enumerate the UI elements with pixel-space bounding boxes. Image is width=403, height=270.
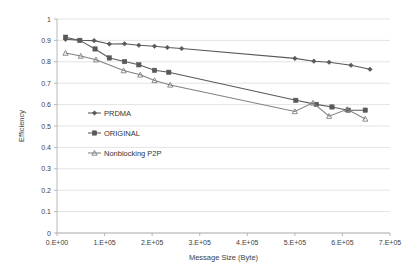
x-tick-label: 7.E+05	[379, 239, 401, 246]
y-tick-label: 0	[47, 230, 51, 237]
y-tick-label: 1	[47, 16, 51, 23]
y-tick-label: 0.9	[41, 37, 51, 44]
x-tick-label: 3.E+05	[189, 239, 211, 246]
data-point-marker	[93, 47, 97, 51]
data-point-marker	[107, 56, 111, 60]
x-tick-label: 1.E+05	[93, 239, 115, 246]
data-point-marker	[363, 108, 367, 112]
chart-container: 00.10.20.30.40.50.60.70.80.91 0.E+001.E+…	[0, 0, 403, 270]
data-point-marker	[167, 70, 171, 74]
y-tick-label: 0.3	[41, 165, 51, 172]
y-tick-label: 0.2	[41, 187, 51, 194]
y-tick-label: 0.1	[41, 208, 51, 215]
data-point-marker	[330, 105, 334, 109]
y-tick-label: 0.8	[41, 58, 51, 65]
y-axis-title: Efficiency	[17, 110, 26, 142]
legend-label: ORIGINAL	[104, 129, 140, 138]
y-tick-label: 0.4	[41, 144, 51, 151]
data-point-marker	[122, 59, 126, 63]
data-point-marker	[294, 98, 298, 102]
data-point-marker	[63, 35, 67, 39]
x-tick-label: 0.E+00	[46, 239, 68, 246]
x-axis-title: Message Size (Byte)	[189, 253, 259, 262]
x-tick-label: 2.E+05	[141, 239, 163, 246]
y-tick-label: 0.7	[41, 80, 51, 87]
legend-marker	[92, 131, 96, 135]
data-point-marker	[137, 63, 141, 67]
legend-label: PRDMA	[104, 109, 131, 118]
legend-label: Nonblocking P2P	[104, 149, 162, 158]
efficiency-line-chart: 00.10.20.30.40.50.60.70.80.91 0.E+001.E+…	[0, 0, 403, 270]
x-tick-label: 4.E+05	[236, 239, 258, 246]
x-tick-label: 6.E+05	[331, 239, 353, 246]
y-tick-label: 0.5	[41, 123, 51, 130]
x-tick-label: 5.E+05	[284, 239, 306, 246]
y-tick-label: 0.6	[41, 101, 51, 108]
data-point-marker	[78, 38, 82, 42]
data-point-marker	[152, 68, 156, 72]
